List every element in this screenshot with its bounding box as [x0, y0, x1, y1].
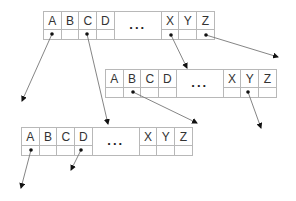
pointer-dot — [29, 148, 33, 152]
pointer-dot — [246, 90, 250, 94]
pointer-dot — [50, 32, 54, 36]
pointer-dot — [204, 33, 208, 37]
pointer-arrow — [22, 34, 52, 101]
pointer-arrow — [87, 34, 108, 124]
pointer-arrow — [21, 150, 31, 188]
pointer-dot — [85, 32, 89, 36]
pointer-arrow — [248, 92, 261, 128]
pointer-dot — [131, 90, 135, 94]
pointer-arrow — [133, 92, 197, 123]
pointer-dot — [79, 148, 83, 152]
arrows-layer — [0, 0, 296, 201]
pointer-arrow — [71, 150, 81, 170]
pointer-dot — [169, 33, 173, 37]
pointer-arrow — [206, 35, 278, 57]
pointer-arrow — [171, 35, 187, 68]
